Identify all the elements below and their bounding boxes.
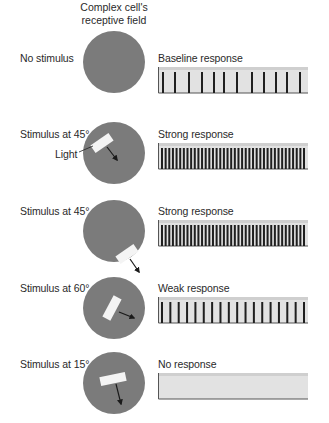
spike	[219, 225, 221, 246]
spike	[270, 302, 272, 323]
spike	[286, 72, 288, 93]
spike	[299, 72, 301, 93]
spike	[197, 225, 199, 246]
spike	[223, 225, 225, 246]
motion-arrow-45b	[130, 259, 139, 272]
spike	[288, 225, 290, 246]
spike	[292, 148, 294, 169]
spike	[275, 72, 277, 93]
spike	[223, 72, 225, 93]
spike	[219, 302, 221, 323]
spike	[162, 72, 164, 93]
spike	[263, 148, 265, 169]
response-panel-3	[158, 220, 308, 246]
spike	[179, 225, 181, 246]
spike	[296, 225, 298, 246]
spike	[201, 72, 203, 93]
spike	[186, 225, 188, 246]
spike	[252, 148, 254, 169]
spike	[299, 225, 301, 246]
spike	[286, 302, 288, 323]
spike	[230, 225, 232, 246]
spike	[263, 72, 265, 93]
spike	[194, 148, 196, 169]
spike	[183, 225, 185, 246]
spike	[267, 148, 269, 169]
spike	[237, 225, 239, 246]
spike	[174, 72, 176, 93]
spike	[165, 148, 167, 169]
spike	[212, 225, 214, 246]
spike	[236, 302, 238, 323]
spike	[168, 148, 170, 169]
spike	[292, 225, 294, 246]
spike	[183, 148, 185, 169]
spike	[201, 148, 203, 169]
spike	[296, 148, 298, 169]
spike	[303, 148, 305, 169]
spike	[227, 148, 229, 169]
spike	[281, 148, 283, 169]
spike	[216, 148, 218, 169]
spike	[237, 148, 239, 169]
spike	[270, 225, 272, 246]
spike	[288, 148, 290, 169]
spike	[241, 148, 243, 169]
spike	[219, 148, 221, 169]
spike	[168, 225, 170, 246]
spike	[212, 148, 214, 169]
spike	[211, 302, 213, 323]
spike	[241, 225, 243, 246]
spike	[252, 225, 254, 246]
spike	[228, 302, 230, 323]
spike	[236, 72, 238, 93]
spike	[190, 225, 192, 246]
spike	[169, 302, 171, 323]
spike	[190, 148, 192, 169]
spike	[263, 225, 265, 246]
spike	[230, 148, 232, 169]
spike	[248, 225, 250, 246]
spike	[261, 302, 263, 323]
spike	[176, 225, 178, 246]
spike	[203, 302, 205, 323]
response-panel-1	[158, 67, 308, 93]
spike	[208, 225, 210, 246]
spike	[281, 225, 283, 246]
spike	[303, 302, 305, 323]
spike	[165, 225, 167, 246]
spike	[161, 148, 163, 169]
spike	[245, 225, 247, 246]
spike	[256, 225, 258, 246]
spike	[253, 302, 255, 323]
spike	[161, 302, 163, 323]
spike	[285, 225, 287, 246]
spike	[278, 148, 280, 169]
spike	[213, 72, 215, 93]
spike	[201, 225, 203, 246]
receptive-field-2	[83, 122, 145, 184]
spike	[172, 148, 174, 169]
spike	[205, 148, 207, 169]
spike	[248, 148, 250, 169]
spike	[194, 302, 196, 323]
spike	[245, 148, 247, 169]
spike	[197, 148, 199, 169]
spike	[245, 302, 247, 323]
complex-cell-diagram	[0, 0, 329, 423]
spike	[259, 148, 261, 169]
response-panel-2	[158, 143, 308, 169]
spike	[161, 225, 163, 246]
spike	[194, 225, 196, 246]
spike	[299, 148, 301, 169]
spike	[251, 72, 253, 93]
spike	[178, 302, 180, 323]
spike	[216, 225, 218, 246]
spike	[295, 302, 297, 323]
spike	[278, 302, 280, 323]
spike	[223, 148, 225, 169]
spike	[179, 148, 181, 169]
spike	[285, 148, 287, 169]
response-panel-5	[158, 373, 308, 399]
spike	[176, 148, 178, 169]
